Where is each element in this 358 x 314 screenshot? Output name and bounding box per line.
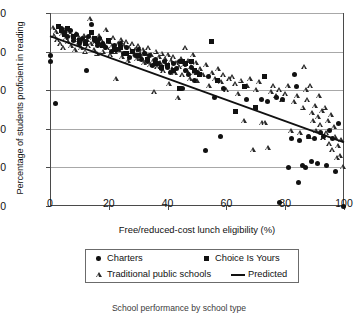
- legend-label-traditional-public-schools: Traditional public schools: [107, 269, 211, 279]
- y-tick-label: 100: [0, 8, 6, 18]
- y-tick-label: 40: [0, 124, 6, 134]
- x-tick-label: 0: [35, 197, 65, 209]
- chart-legend: Charters Choice Is Yours Traditional pub…: [85, 249, 299, 283]
- filled-square-icon: [200, 253, 213, 263]
- legend-label-predicted: Predicted: [248, 269, 287, 279]
- legend-label-choice-is-yours: Choice Is Yours: [215, 253, 280, 263]
- figure-caption: School performance by school type: [0, 303, 358, 313]
- y-tick-label: 0: [0, 201, 6, 211]
- legend-item-choice-is-yours: Choice Is Yours: [200, 250, 280, 266]
- x-tick-label: 20: [94, 197, 124, 209]
- predicted-trendline: [50, 13, 344, 206]
- x-tick-label: 60: [211, 197, 241, 209]
- legend-item-predicted: Predicted: [230, 266, 287, 282]
- legend-label-charters: Charters: [107, 253, 143, 263]
- legend-item-traditional-public-schools: Traditional public schools: [92, 266, 211, 282]
- y-tick-label: 60: [0, 85, 6, 95]
- x-tick-label: 100: [329, 197, 358, 209]
- y-tick-label: 80: [0, 47, 6, 57]
- legend-row-top: Charters Choice Is Yours: [86, 250, 300, 266]
- scatter-chart-figure: Percentage of students proficient in rea…: [0, 0, 358, 314]
- line-icon: [230, 269, 246, 279]
- legend-item-charters: Charters: [92, 250, 143, 266]
- open-triangle-icon: [92, 269, 105, 279]
- x-tick-label: 80: [270, 197, 300, 209]
- y-axis-label: Percentage of students proficient in rea…: [15, 2, 25, 214]
- filled-circle-icon: [92, 253, 105, 263]
- plot-area: [50, 13, 344, 206]
- y-tick-label: 20: [0, 162, 6, 172]
- legend-row-bottom: Traditional public schools Predicted: [86, 266, 300, 282]
- x-axis-label: Free/reduced-cost lunch eligibility (%): [50, 224, 344, 235]
- x-tick-label: 40: [153, 197, 183, 209]
